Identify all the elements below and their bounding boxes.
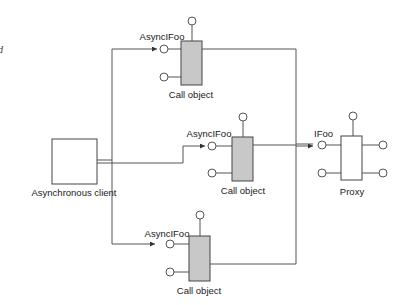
interface-lollipop-icon (379, 141, 387, 149)
call-object-diagram: d Asynchronous client AsyncIFoo (0, 0, 408, 305)
interface-lollipop-icon (318, 169, 326, 177)
connectors (97, 49, 313, 264)
interface-lollipop-icon (379, 169, 387, 177)
call-object-label: Call object (169, 89, 214, 100)
interface-label: AsyncIFoo (187, 128, 232, 139)
interface-label: AsyncIFoo (145, 228, 190, 239)
call-object-label: Call object (177, 285, 222, 296)
interface-lollipop-icon (208, 142, 216, 150)
call-object-label: Call object (221, 185, 266, 196)
proxy-interface-label: IFoo (314, 128, 333, 139)
asynchronous-client: Asynchronous client (31, 139, 116, 198)
interface-lollipop-icon (160, 73, 168, 81)
call-object-bottom: AsyncIFoo Call object (145, 211, 222, 296)
proxy-label: Proxy (340, 186, 365, 197)
proxy: IFoo Proxy (314, 112, 387, 197)
interface-lollipop-icon (166, 240, 174, 248)
interface-lollipop-icon (318, 141, 326, 149)
call-object-middle: AsyncIFoo Call object (187, 113, 266, 196)
interface-lollipop-icon (196, 211, 204, 219)
call-object-top: AsyncIFoo Call object (140, 17, 214, 100)
client-label: Asynchronous client (31, 187, 116, 198)
caption-fragment: d (0, 44, 4, 55)
interface-lollipop-icon (208, 169, 216, 177)
interface-lollipop-icon (239, 113, 247, 121)
interface-lollipop-icon (349, 112, 357, 120)
interface-lollipop-icon (166, 268, 174, 276)
interface-lollipop-icon (188, 17, 196, 25)
interface-lollipop-icon (160, 45, 168, 53)
interface-label: AsyncIFoo (140, 31, 185, 42)
